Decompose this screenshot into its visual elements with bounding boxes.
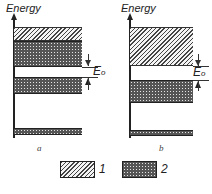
gap-label-a: Eo	[93, 64, 105, 78]
legend-swatch-dotted	[122, 161, 157, 178]
gap-arrow-bottom-b	[198, 81, 199, 91]
band-hatched-a	[14, 27, 82, 41]
legend-swatch-hatched	[60, 161, 95, 178]
band-dotted-middle-b	[130, 80, 193, 103]
caption-b: b	[159, 143, 164, 153]
gap-label-b: Eo	[193, 65, 205, 79]
legend-label-2: 2	[161, 162, 168, 176]
band-dotted-middle-a	[14, 77, 82, 94]
legend-label-1: 1	[99, 162, 106, 176]
caption-a: a	[37, 143, 42, 153]
gap-arrow-bottom-a	[88, 78, 89, 90]
band-hatched-b	[130, 27, 193, 66]
band-dotted-bottom-b	[130, 130, 193, 136]
arrow-down-icon	[85, 60, 91, 66]
band-dotted-upper-a	[14, 41, 82, 67]
band-dotted-bottom-a	[14, 128, 82, 135]
